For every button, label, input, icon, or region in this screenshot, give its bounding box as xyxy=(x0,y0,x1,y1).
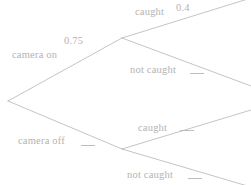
tree-branch-lines xyxy=(0,0,251,185)
probability-label-caught-top: 0.4 xyxy=(176,3,190,14)
probability-blank-caught-bottom xyxy=(180,130,194,131)
probability-tree-diagram: camera on 0.75 camera off caught 0.4 not… xyxy=(0,0,251,185)
branch-label-camera-on: camera on xyxy=(12,50,57,61)
branch-label-not-caught-top: not caught xyxy=(130,65,176,76)
probability-blank-camera-off xyxy=(81,145,95,146)
branch-label-not-caught-bottom: not caught xyxy=(127,170,173,181)
branch-line-camera-on xyxy=(8,38,122,101)
branch-label-caught-bottom: caught xyxy=(138,123,167,134)
probability-blank-not-caught-bottom xyxy=(188,178,202,179)
branch-label-camera-off: camera off xyxy=(18,136,65,147)
probability-blank-not-caught-top xyxy=(190,73,204,74)
branch-label-caught-top: caught xyxy=(135,7,164,18)
branch-line-not-caught-top xyxy=(122,38,251,86)
probability-label-camera-on: 0.75 xyxy=(64,36,83,47)
